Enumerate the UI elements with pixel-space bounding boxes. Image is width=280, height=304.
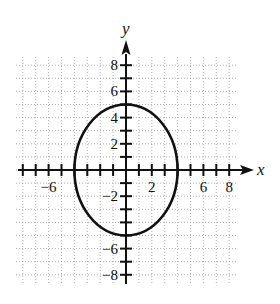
y-axis-arrow-icon [122, 40, 131, 55]
axes [18, 40, 254, 284]
y-tick-label: 2 [111, 136, 119, 152]
x-tick-label: 6 [200, 179, 208, 195]
ellipse-graph: −62688642−2−6−8 x y [0, 0, 280, 304]
x-tick-label: 8 [225, 179, 233, 195]
y-tick-label: 8 [111, 57, 119, 73]
x-tick-label: 2 [148, 179, 156, 195]
y-tick-label: −2 [102, 188, 118, 204]
x-tick-label: −6 [41, 179, 57, 195]
y-axis-label: y [120, 19, 130, 38]
y-tick-label: −6 [102, 241, 118, 257]
y-tick-label: −8 [102, 267, 118, 283]
x-axis-label: x [256, 160, 265, 179]
y-tick-label: 4 [111, 110, 119, 126]
y-tick-label: 6 [111, 83, 119, 99]
